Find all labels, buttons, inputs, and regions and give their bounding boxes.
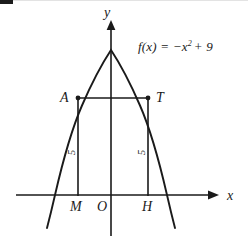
- function-expression-label: f(x) = −x2+ 9: [138, 40, 213, 53]
- plot-canvas: [0, 0, 248, 242]
- segment-length-label-TH: 5: [136, 150, 147, 156]
- y-axis: [107, 20, 116, 236]
- x-axis: [16, 191, 219, 200]
- point-label-H: H: [142, 200, 152, 214]
- function-expression-exponent: 2: [188, 39, 192, 48]
- point-label-A: A: [60, 91, 69, 105]
- math-figure: y x f(x) = −x2+ 9 A T M H O 5 5: [0, 0, 248, 242]
- point-marker-A: [76, 96, 81, 101]
- y-axis-label: y: [104, 6, 110, 20]
- point-label-M: M: [70, 200, 82, 214]
- origin-label-O: O: [97, 200, 107, 214]
- point-label-T: T: [156, 91, 164, 105]
- segment-length-label-AM: 5: [66, 150, 77, 156]
- function-expression-rhs: + 9: [194, 39, 213, 54]
- x-axis-label: x: [227, 189, 233, 203]
- function-expression-lhs: f(x) = −x: [138, 39, 188, 54]
- point-marker-T: [146, 96, 151, 101]
